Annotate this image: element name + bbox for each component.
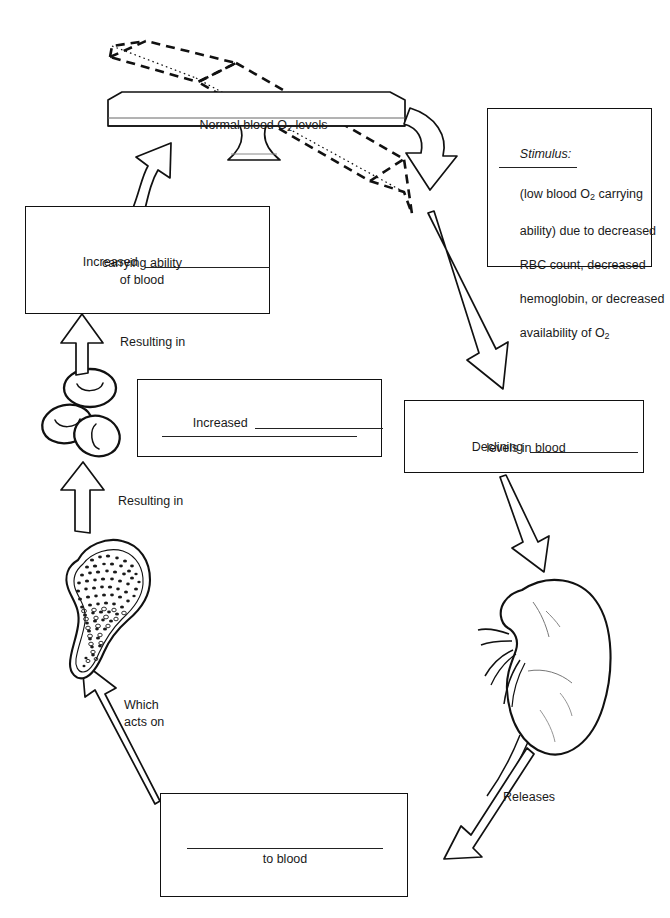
to-blood-label: to blood xyxy=(187,851,383,868)
arrow-declining-to-kidney xyxy=(500,475,549,572)
arrow-to-bone-marrow xyxy=(82,662,160,804)
increased-carrying-line2: carrying ability xyxy=(62,255,222,272)
increased-blank-label: Increased xyxy=(193,416,248,430)
increased-blank-line-2[interactable] xyxy=(162,436,357,437)
stimulus-line-1: (low blood O xyxy=(520,187,590,201)
to-blood-blank[interactable] xyxy=(187,848,383,849)
declining-levels-box: Declining levels in blood xyxy=(404,400,644,473)
arrow-increased-to-balance xyxy=(133,143,171,209)
increased-carrying-line3: of blood xyxy=(62,272,222,289)
increased-blank-line-1[interactable] xyxy=(255,428,383,429)
label-which-acts-on-line2: acts on xyxy=(124,714,164,730)
stimulus-heading: Stimulus: xyxy=(520,147,571,161)
label-resulting-in-bottom: Resulting in xyxy=(118,493,183,509)
arrow-rbc-to-increased xyxy=(61,314,103,375)
stimulus-line-5: availability of O xyxy=(520,326,605,340)
stimulus-line-1-post: carrying xyxy=(595,187,643,201)
declining-line2: levels in blood xyxy=(451,440,601,457)
label-resulting-in-top: Resulting in xyxy=(120,334,185,350)
stimulus-line-3: RBC count, decreased xyxy=(520,258,646,272)
balance-beam-label-suffix: levels xyxy=(292,118,327,132)
increased-blank-box: Increased xyxy=(137,379,382,457)
label-releases: Releases xyxy=(503,789,555,805)
balance-beam-label: Normal blood O2 levels xyxy=(108,101,405,152)
stimulus-body: (low blood O2 carrying ability) due to d… xyxy=(499,169,664,362)
increased-blank-label-row: Increased xyxy=(172,398,383,449)
stimulus-blank-line[interactable] xyxy=(499,167,577,168)
red-blood-cells-illustration xyxy=(39,369,125,462)
arrow-balance-to-stimulus xyxy=(404,108,457,190)
bone-marrow-illustration xyxy=(66,540,150,678)
stimulus-line-4: hemoglobin, or decreased xyxy=(520,292,665,306)
stimulus-line-5-subscript: 2 xyxy=(605,331,610,341)
kidney-illustration xyxy=(478,580,611,801)
balance-beam-label-text: Normal blood O xyxy=(199,118,287,132)
label-which-acts-on-line1: Which xyxy=(124,697,159,713)
stimulus-line-2: ability) due to decreased xyxy=(520,224,656,238)
increased-carrying-ability-box: Increased carrying ability of blood xyxy=(25,206,270,314)
arrow-marrow-to-rbc xyxy=(61,462,104,533)
stimulus-box: Stimulus: (low blood O2 carrying ability… xyxy=(487,108,652,267)
diagram-canvas: Normal blood O2 levels Stimulus: (low bl… xyxy=(0,0,670,918)
to-blood-box: to blood xyxy=(160,793,408,897)
